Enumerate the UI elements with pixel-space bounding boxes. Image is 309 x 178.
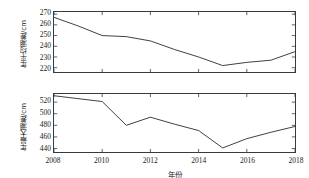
x-tick-label: 2010: [94, 157, 109, 165]
y-axis-label-bottom: 年最大潮差/cm: [20, 99, 30, 155]
y-axis-label-top: 年平均潮差/cm: [20, 16, 30, 72]
x-tick-label: 2016: [240, 157, 255, 165]
x-tick-label: 2008: [46, 157, 61, 165]
x-tick-label: 2018: [289, 157, 304, 165]
x-axis-label: 年份: [53, 171, 296, 178]
figure-container: 年平均潮差/cm 270260250240230220 年最大潮差/cm 520…: [0, 0, 309, 178]
line-series-mean-tidal-range: [54, 12, 295, 72]
y-tick-label: 480: [40, 122, 51, 130]
y-tick-label: 250: [40, 32, 51, 40]
chart-panel-max-tidal-range: 年最大潮差/cm 520500480460440 200820102012201…: [0, 85, 309, 178]
x-tick-label: 2012: [143, 157, 158, 165]
y-tick-label: 520: [40, 98, 51, 106]
chart-panel-mean-tidal-range: 年平均潮差/cm 270260250240230220: [0, 0, 309, 89]
y-tick-label: 260: [40, 21, 51, 29]
y-tick-label: 270: [40, 9, 51, 17]
plot-area-bottom: [53, 93, 296, 153]
x-tick-label: 2014: [191, 157, 206, 165]
line-series-max-tidal-range: [54, 94, 295, 152]
y-tick-label: 440: [40, 146, 51, 154]
y-tick-label: 460: [40, 134, 51, 142]
y-tick-label: 240: [40, 43, 51, 51]
plot-area-top: [53, 11, 296, 73]
y-tick-label: 220: [40, 65, 51, 73]
y-tick-label: 230: [40, 54, 51, 62]
y-tick-label: 500: [40, 110, 51, 118]
